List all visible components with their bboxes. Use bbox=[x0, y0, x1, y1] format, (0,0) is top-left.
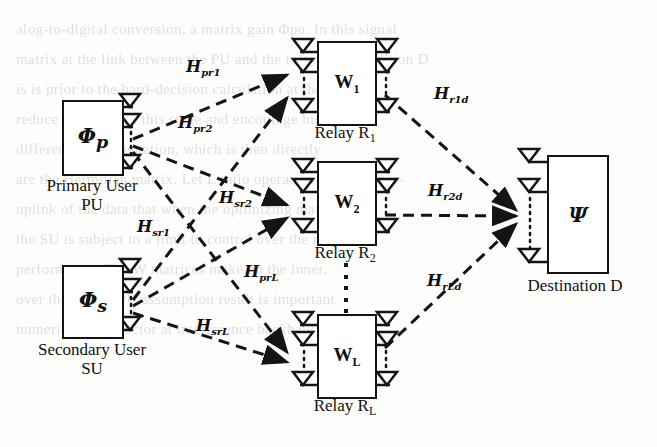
relay-2-matrix-symbol: W2 bbox=[335, 191, 360, 217]
relay-L-caption: Relay RL bbox=[290, 396, 400, 421]
relay-1-matrix-symbol: W1 bbox=[335, 71, 360, 97]
relay-1-caption: Relay R1 bbox=[290, 123, 400, 148]
primary-user-caption-line2: PU bbox=[81, 195, 103, 214]
secondary-user-caption-line1: Secondary User bbox=[38, 340, 146, 359]
channel-label-H-pr1: Hpr1 bbox=[186, 57, 220, 78]
channel-label-H-pr2: Hpr2 bbox=[178, 113, 212, 134]
arrow-H-pr2 bbox=[133, 146, 287, 205]
secondary-user-block[interactable]: Φs bbox=[62, 265, 124, 339]
channel-label-H-rLd: HrLd bbox=[427, 271, 461, 292]
figure-canvas: alog-to-digital conversion, a matrix gai… bbox=[0, 0, 657, 447]
channel-label-H-srL: HsrL bbox=[196, 316, 229, 337]
relay-1-caption-text: Relay R bbox=[314, 123, 369, 142]
primary-user-block[interactable]: Φp bbox=[62, 100, 124, 176]
channel-label-H-sr1: Hsr1 bbox=[137, 217, 170, 238]
secondary-user-caption-line2: SU bbox=[81, 359, 103, 378]
primary-user-caption-line1: Primary User bbox=[46, 176, 137, 195]
relay-2-caption-sub: 2 bbox=[370, 251, 376, 265]
channel-label-H-r1d: Hr1d bbox=[434, 84, 468, 105]
relay-2-caption-text: Relay R bbox=[314, 243, 369, 262]
relay-1-block[interactable]: W1 bbox=[317, 41, 377, 126]
destination-symbol: Ψ bbox=[568, 202, 587, 227]
primary-user-symbol: Φp bbox=[78, 123, 109, 152]
secondary-user-symbol: Φs bbox=[79, 287, 107, 316]
primary-user-caption: Primary User PU bbox=[28, 176, 156, 214]
destination-caption: Destination D bbox=[500, 276, 650, 295]
relay-1-caption-sub: 1 bbox=[370, 131, 376, 145]
channel-label-H-sr2: Hsr2 bbox=[219, 188, 252, 209]
destination-antenna-group bbox=[519, 149, 548, 262]
relay-L-matrix-symbol: WL bbox=[333, 344, 360, 370]
relay-L-block[interactable]: WL bbox=[317, 314, 377, 399]
relay-L-caption-text: Relay R bbox=[314, 396, 369, 415]
channel-label-H-prL: HprL bbox=[244, 262, 278, 283]
destination-block[interactable]: Ψ bbox=[547, 155, 609, 274]
secondary-user-caption: Secondary User SU bbox=[12, 340, 172, 378]
channel-label-H-r2d: Hr2d bbox=[428, 181, 462, 202]
relay-2-block[interactable]: W2 bbox=[317, 161, 377, 246]
relay-L-caption-sub: L bbox=[369, 404, 376, 418]
relay-continuation-dots bbox=[343, 263, 348, 313]
arrow-H-r2d bbox=[385, 215, 516, 216]
